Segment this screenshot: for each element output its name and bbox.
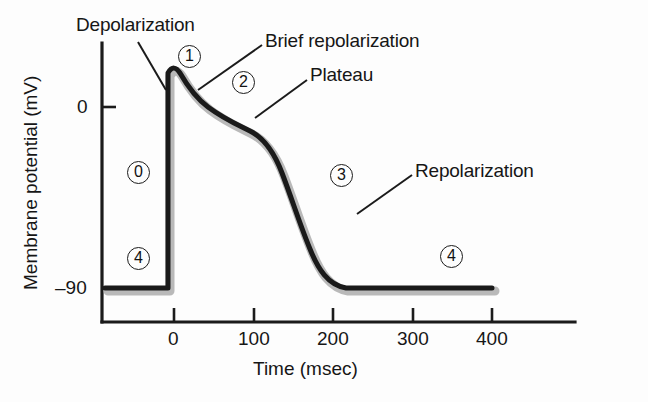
leader-plateau (255, 80, 307, 118)
x-tick-label-400: 400 (476, 328, 508, 350)
annotation-brief-repolarization: Brief repolarization (265, 30, 419, 52)
x-tick-label-100: 100 (238, 328, 270, 350)
leader-depolarization (138, 42, 166, 90)
action-potential-figure: Membrane potential (mV) Time (msec) 0 –9… (0, 0, 648, 402)
x-tick-label-0: 0 (168, 328, 179, 350)
annotation-repolarization: Repolarization (415, 160, 534, 182)
x-axis-title: Time (msec) (253, 358, 358, 380)
phase-badge-4-right: 4 (440, 245, 463, 268)
phase-badge-4-left: 4 (127, 247, 150, 270)
x-tick-label-300: 300 (397, 328, 429, 350)
y-axis-title: Membrane potential (mV) (20, 76, 42, 290)
annotation-plateau: Plateau (310, 64, 373, 86)
phase-badge-3: 3 (330, 164, 353, 187)
y-tick-label-0: 0 (77, 96, 88, 118)
x-tick-label-200: 200 (317, 328, 349, 350)
phase-badge-0: 0 (127, 161, 150, 184)
y-tick-label-minus90: –90 (55, 277, 87, 299)
phase-badge-2: 2 (232, 71, 255, 94)
leader-repolarization (357, 175, 412, 214)
annotation-depolarization: Depolarization (76, 14, 195, 36)
phase-badge-1: 1 (178, 45, 201, 68)
